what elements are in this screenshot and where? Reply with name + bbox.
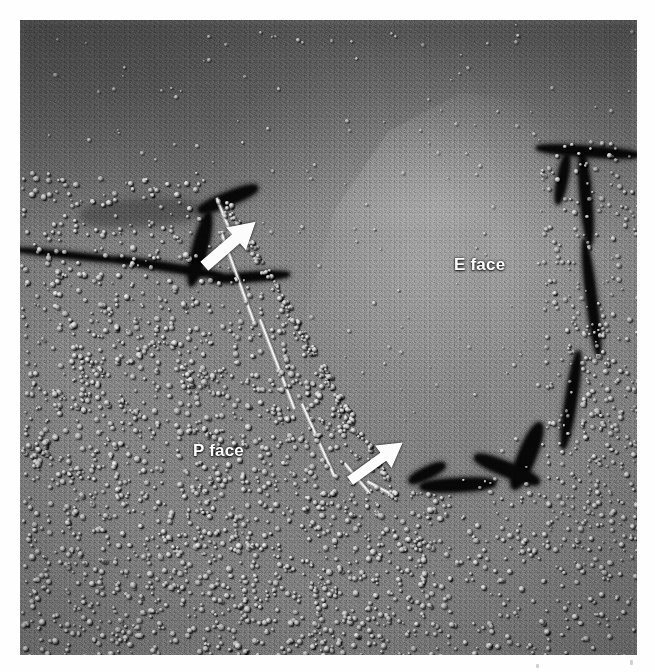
scan-artifact-1 bbox=[536, 664, 539, 668]
micrograph-image: E face P face bbox=[20, 20, 637, 655]
vignette bbox=[20, 20, 637, 655]
scan-artifact-2 bbox=[630, 660, 633, 665]
page-root: E face P face bbox=[0, 0, 655, 672]
